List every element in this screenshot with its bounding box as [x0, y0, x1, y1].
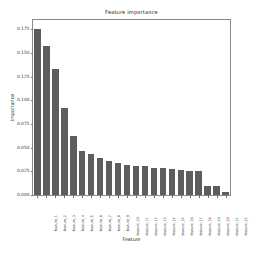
plot-area: 0.0000.0250.0500.0750.1000.1250.1500.175…	[32, 19, 231, 196]
x-axis-tick-label: feature_10	[138, 217, 141, 235]
bar[interactable]	[34, 29, 40, 195]
x-axis-tick-mark	[37, 195, 38, 198]
y-axis-tick-label: 0.100	[17, 98, 30, 102]
x-axis-tick-mark	[145, 195, 146, 198]
x-axis-tick-mark	[82, 195, 83, 198]
x-axis-tick-mark	[163, 195, 164, 198]
x-axis-tick-mark	[199, 195, 200, 198]
bar[interactable]	[213, 186, 219, 195]
bar[interactable]	[151, 168, 157, 195]
bar[interactable]	[79, 151, 85, 195]
x-axis-tick-mark	[73, 195, 74, 198]
x-axis-tick-mark	[55, 195, 56, 198]
bar[interactable]	[97, 158, 103, 195]
x-axis-tick-label: feature_5	[91, 215, 94, 231]
x-axis-tick-mark	[46, 195, 47, 198]
bar[interactable]	[142, 166, 148, 195]
bar[interactable]	[106, 161, 112, 195]
x-axis-tick-mark	[64, 195, 65, 198]
feature-importance-chart: Feature Importance Importance 0.0000.025…	[0, 0, 263, 255]
x-axis-tick-mark	[208, 195, 209, 198]
x-axis-tick-mark	[172, 195, 173, 198]
bar[interactable]	[70, 136, 76, 195]
x-axis-tick-label: feature_9	[127, 215, 130, 231]
x-axis-tick-mark	[118, 195, 119, 198]
x-axis-tick-mark	[154, 195, 155, 198]
bar[interactable]	[204, 186, 210, 195]
x-axis-tick-label: feature_21	[236, 217, 239, 235]
y-axis-label: Importance	[8, 19, 17, 196]
x-axis-tick-label: feature_4	[82, 215, 85, 231]
y-axis-tick-label: 0.050	[17, 145, 30, 149]
x-axis-tick-label: feature_8	[118, 215, 121, 231]
x-axis-tick-label: feature_17	[200, 217, 203, 235]
x-axis-tick-label: feature_2	[64, 215, 67, 231]
x-axis-tick-label: feature_1	[55, 215, 58, 231]
x-axis-tick-mark	[190, 195, 191, 198]
bar[interactable]	[61, 108, 67, 196]
bar[interactable]	[52, 69, 58, 195]
y-axis-tick-label: 0.000	[17, 193, 30, 197]
bars-layer	[33, 20, 230, 195]
bar[interactable]	[43, 46, 49, 195]
y-axis-label-text: Importance	[10, 94, 15, 122]
y-axis-tick-label: 0.125	[17, 75, 30, 79]
x-axis-tick-label: feature_22	[245, 217, 248, 235]
x-axis-label: Feature	[32, 237, 231, 242]
x-axis-tick-label: feature_18	[209, 217, 212, 235]
x-axis-tick-label: feature_19	[218, 217, 221, 235]
x-axis-tick-mark	[226, 195, 227, 198]
chart-title: Feature Importance	[32, 9, 231, 15]
y-axis-tick-label: 0.150	[17, 51, 30, 55]
bar[interactable]	[186, 171, 192, 195]
y-axis-tick-mark	[31, 195, 34, 196]
bar[interactable]	[124, 165, 130, 195]
x-axis-tick-label: feature_16	[191, 217, 194, 235]
x-axis-tick-mark	[91, 195, 92, 198]
x-axis-tick-label: feature_3	[73, 215, 76, 231]
x-axis-tick-mark	[217, 195, 218, 198]
x-axis-tick-mark	[136, 195, 137, 198]
x-axis-tick-mark	[109, 195, 110, 198]
x-axis-tick-label: feature_13	[165, 217, 168, 235]
bar[interactable]	[178, 170, 184, 195]
y-axis-tick-label: 0.175	[17, 27, 30, 31]
x-axis-tick-label: feature_12	[156, 217, 159, 235]
x-axis-tick-label: feature_14	[174, 217, 177, 235]
x-axis-tick-mark	[181, 195, 182, 198]
x-axis-tick-label: feature_15	[183, 217, 186, 235]
y-axis-tick-label: 0.025	[17, 169, 30, 173]
x-axis-tick-label: feature_6	[100, 215, 103, 231]
bar[interactable]	[169, 169, 175, 195]
bar[interactable]	[195, 171, 201, 195]
bar[interactable]	[88, 154, 94, 195]
x-axis-tick-label: feature_7	[109, 215, 112, 231]
x-axis-tick-mark	[127, 195, 128, 198]
x-axis-tick-label: feature_20	[227, 217, 230, 235]
x-axis-tick-label: feature_11	[147, 217, 150, 235]
bar[interactable]	[133, 166, 139, 195]
x-axis-tick-mark	[100, 195, 101, 198]
bar[interactable]	[115, 163, 121, 195]
y-axis-tick-label: 0.075	[17, 122, 30, 126]
bar[interactable]	[160, 168, 166, 195]
